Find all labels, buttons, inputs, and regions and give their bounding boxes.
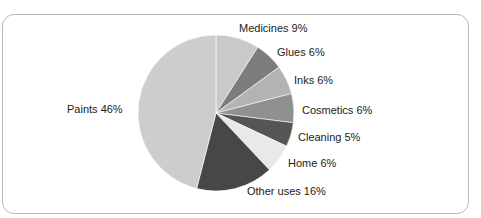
label-other-uses: Other uses 16%: [247, 185, 326, 197]
label-home: Home 6%: [288, 157, 336, 169]
label-inks: Inks 6%: [294, 74, 333, 86]
label-medicines: Medicines 9%: [239, 22, 307, 34]
label-glues: Glues 6%: [277, 46, 325, 58]
label-paints: Paints 46%: [67, 103, 123, 115]
label-cleaning: Cleaning 5%: [298, 131, 360, 143]
label-cosmetics: Cosmetics 6%: [302, 104, 372, 116]
